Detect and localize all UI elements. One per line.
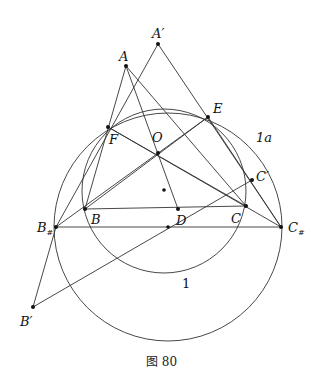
point-b-sharp [54, 225, 58, 229]
label-f: F [108, 132, 119, 147]
label-c: C [231, 211, 241, 226]
label-b-sharp: B# [36, 220, 54, 237]
label-e: E [212, 101, 223, 116]
label-c-sharp: C# [288, 220, 305, 237]
label-a-prime: A′ [151, 26, 164, 41]
label-b-prime: B′ [19, 314, 33, 329]
geometry-diagram: A A′ F E O B C D B# C# B′ C′ 1 1a 图 80 [0, 0, 321, 389]
label-circle-1a: 1a [256, 130, 272, 145]
center-circle-1 [162, 188, 166, 192]
point-e [206, 115, 210, 119]
line-bsharp-bprime [33, 227, 56, 307]
point-o [156, 151, 160, 155]
center-circle-1a [166, 225, 170, 229]
figure-caption: 图 80 [146, 355, 177, 369]
label-b: B [90, 212, 101, 227]
label-o: O [152, 130, 163, 145]
point-f [106, 125, 110, 129]
point-b-prime [31, 305, 35, 309]
figure: A A′ F E O B C D B# C# B′ C′ 1 1a 图 80 [0, 0, 321, 389]
point-b [83, 207, 87, 211]
label-c-prime: C′ [256, 169, 269, 184]
line-bprime-cprime [33, 180, 252, 307]
label-d: D [175, 213, 187, 228]
point-c-sharp [279, 225, 283, 229]
label-a: A [118, 49, 128, 64]
line-b-c [85, 206, 246, 209]
point-a-prime [156, 42, 160, 46]
label-circle-1: 1 [182, 276, 190, 291]
point-a [124, 64, 128, 68]
point-c-prime [250, 178, 254, 182]
line-a-c [126, 66, 246, 206]
line-aprime-bsharp [56, 44, 158, 227]
point-c [244, 204, 248, 208]
point-d [176, 207, 180, 211]
